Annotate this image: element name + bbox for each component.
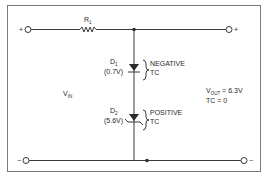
sign-top-right: + [234,26,238,33]
circuit-diagram: + + − − R1 D1 (0.7V) NEGATIVE TC D2 (5.6… [0,0,267,179]
label-d1: D1 [110,58,118,67]
top-rail [31,27,226,32]
terminal-top-left [25,27,31,33]
terminal-top-right [226,27,232,33]
terminal-bottom-left [23,158,29,164]
label-d2-tc-line2: TC [150,118,159,125]
label-vout: VOUT = 6.3V [206,87,243,96]
label-vin: VIN [63,90,72,99]
label-tc-zero: TC = 0 [206,97,227,104]
label-d2: D2 [110,107,118,116]
junction-dot-bottom [145,159,149,163]
resistor-r1 [80,27,96,32]
diode-d1-symbol [128,64,140,72]
sign-bottom-left: − [17,157,21,164]
brace-d1 [143,60,149,80]
bottom-rail [29,159,241,163]
label-d1-tc-line2: TC [150,69,159,76]
label-d1-tc-line1: NEGATIVE [150,60,185,67]
sign-top-left: + [19,26,23,33]
sign-bottom-right: − [249,157,253,164]
brace-d2 [143,110,149,130]
label-d2-voltage: (5.6V) [104,117,123,125]
label-d2-tc-line1: POSITIVE [150,109,183,116]
terminal-bottom-right [241,158,247,164]
label-r1: R1 [84,16,92,25]
label-d1-voltage: (0.7V) [104,68,123,76]
